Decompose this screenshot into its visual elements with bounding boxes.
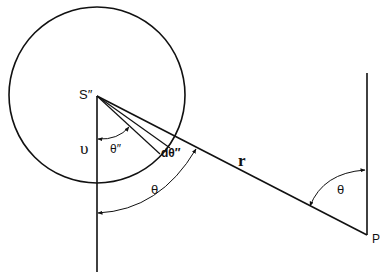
label-point-p: P [372,233,380,245]
label-theta-right: θ [337,183,344,196]
radius-vector-r [97,96,367,235]
label-theta-lower: θ [151,183,158,196]
label-source: S″ [79,88,92,101]
geometry-drawing [0,0,385,278]
label-r: r [238,152,246,169]
label-dtheta-pp: dθ″ [161,147,181,159]
diagram-canvas: S″ υ θ″ dθ″ r θ θ P [0,0,385,278]
arc-theta-pp [98,127,129,139]
label-theta-pp: θ″ [110,143,121,155]
label-upsilon: υ [80,140,88,157]
ray-theta-pp [97,96,160,154]
ray-dtheta-pp [97,96,170,148]
